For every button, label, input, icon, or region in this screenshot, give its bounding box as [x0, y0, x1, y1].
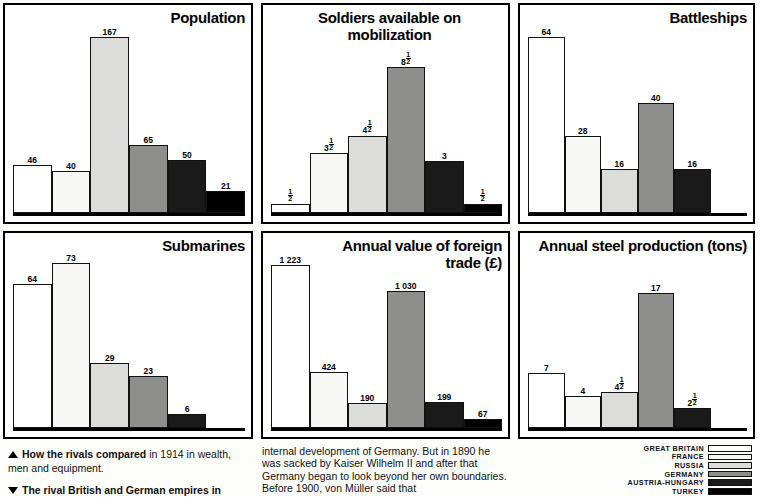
bar-value-label: 16	[675, 160, 710, 169]
bar-slot: 21	[206, 13, 245, 213]
bar-value-label: 40	[53, 162, 90, 171]
legend-item-gb: GREAT BRITAIN	[644, 444, 752, 453]
chart-panel-population: Population 4640167655021	[0, 0, 258, 228]
bar-au: 212	[674, 408, 711, 428]
legend: GREAT BRITAINFRANCERUSSIAGERMANYAUSTRIA-…	[628, 444, 752, 496]
bar-value-label: 40	[639, 94, 674, 103]
plot-area-population: 4640167655021	[13, 13, 245, 216]
bar-fr: 424	[310, 372, 349, 428]
bar-ru: 412	[601, 392, 638, 428]
bar-de: 17	[638, 293, 675, 428]
chart-title-population: Population	[171, 9, 246, 26]
chart-panel-battleships: Battleships 6428164016	[515, 0, 760, 228]
bar-series-population: 4640167655021	[13, 13, 245, 213]
legend-swatch	[708, 462, 752, 469]
legend-item-fr: FRANCE	[672, 453, 752, 462]
bar-value-label: 67	[465, 410, 502, 419]
bar-slot: 23	[129, 241, 168, 428]
bar-slot: 65	[129, 13, 168, 213]
chart-panel-submarines: Submarines 647329236	[0, 228, 258, 443]
bar-slot: 812	[387, 47, 426, 213]
bar-value-label: 1 030	[388, 282, 425, 291]
bar-value-label: 46	[14, 156, 51, 165]
bar-slot: 412	[601, 275, 638, 428]
bar-slot: 16	[601, 13, 638, 213]
bar-slot: 312	[310, 47, 349, 213]
chart-title-soldiers: Soldiers available on mobilization	[277, 9, 502, 43]
bar-value-label: 29	[91, 354, 128, 363]
bar-de: 65	[129, 145, 168, 214]
bar-slot: 50	[168, 13, 207, 213]
legend-item-de: GERMANY	[664, 470, 752, 479]
bar-ru: 190	[348, 403, 387, 428]
bar-gb: 64	[528, 37, 565, 213]
bar-value-label: 1 223	[272, 256, 309, 265]
bar-fr: 40	[52, 171, 91, 213]
bar-value-label: 167	[91, 28, 128, 37]
bar-value-label: 16	[602, 160, 637, 169]
bar-value-label: 424	[311, 363, 348, 372]
bar-slot: 64	[13, 241, 52, 428]
bar-slot: 212	[674, 275, 711, 428]
bar-value-label: 17	[639, 284, 674, 293]
caption-one: How the rivals compared in 1914 in wealt…	[8, 448, 254, 475]
bar-value-label: 73	[53, 254, 90, 263]
caption-column-left: How the rivals compared in 1914 in wealt…	[8, 443, 254, 497]
legend-label: TURKEY	[672, 487, 704, 496]
bar-series-soldiers: 12312412812312	[271, 47, 502, 213]
bar-au: 199	[425, 402, 464, 428]
bar-ru: 16	[601, 169, 638, 213]
bar-gb: 64	[13, 284, 52, 428]
plot-area-soldiers: 12312412812312	[271, 47, 502, 216]
bar-value-label: 412	[349, 120, 386, 135]
bar-value-label: 65	[130, 136, 167, 145]
bar-slot: 64	[528, 13, 565, 213]
plot-area-battleships: 6428164016	[528, 13, 747, 216]
bar-tr: 12	[464, 204, 503, 213]
bar-slot	[711, 13, 748, 213]
bar-tr: 21	[206, 191, 245, 213]
bar-slot: 4	[565, 275, 602, 428]
bar-fr: 4	[565, 396, 602, 428]
bar-value-label: 21	[207, 182, 244, 191]
plot-area-trade: 1 2234241901 03019967	[271, 243, 502, 431]
charts-grid: Population 4640167655021 Soldiers availa…	[0, 0, 760, 443]
bar-slot: 40	[52, 13, 91, 213]
bar-value-label: 28	[566, 127, 601, 136]
bar-value-label: 7	[529, 364, 564, 373]
bar-slot: 3	[425, 47, 464, 213]
bar-slot	[206, 241, 245, 428]
bar-tr: 67	[464, 419, 503, 428]
triangle-down-icon	[8, 487, 18, 494]
legend-swatch	[708, 488, 752, 495]
bar-gb: 1 223	[271, 265, 310, 428]
bar-gb: 7	[528, 373, 565, 428]
bar-value-label: 812	[388, 52, 425, 67]
bar-ru: 412	[348, 136, 387, 213]
bar-series-submarines: 647329236	[13, 241, 245, 428]
legend-swatch	[708, 454, 752, 461]
bar-value-label: 3	[426, 152, 463, 161]
chart-title-trade: Annual value of foreign trade (£)	[307, 237, 502, 271]
legend-item-ru: RUSSIA	[674, 461, 752, 470]
bar-fr: 28	[565, 136, 602, 213]
bar-value-label: 50	[169, 151, 206, 160]
bar-au: 6	[168, 414, 207, 428]
bar-value-label: 212	[675, 393, 710, 408]
bar-slot: 7	[528, 275, 565, 428]
chart-title-steel: Annual steel production (tons)	[530, 237, 747, 254]
bar-value-label: 190	[349, 394, 386, 403]
bar-slot	[711, 275, 748, 428]
legend-swatch	[708, 445, 752, 452]
bar-slot: 412	[348, 47, 387, 213]
bar-slot: 12	[464, 47, 503, 213]
caption-two: The rival British and German empires in	[8, 484, 254, 497]
bar-value-label: 12	[272, 189, 309, 204]
bar-value-label: 12	[465, 189, 502, 204]
bar-ru: 29	[90, 363, 129, 428]
infographic-sheet: Population 4640167655021 Soldiers availa…	[0, 0, 760, 497]
bar-ru: 167	[90, 37, 129, 213]
body-text-column: internal development of Germany. But in …	[262, 443, 510, 495]
bar-series-battleships: 6428164016	[528, 13, 747, 213]
bar-slot: 73	[52, 241, 91, 428]
